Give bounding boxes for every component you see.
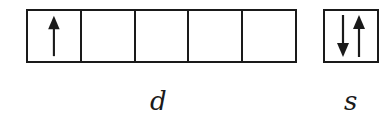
- d-orbital-cell-3: [134, 11, 188, 61]
- d-orbital-boxes: [26, 9, 297, 63]
- s-orbital-label: s: [344, 88, 357, 114]
- d-orbital-cell-2: [80, 11, 134, 61]
- d-orbital-label: d: [150, 88, 167, 114]
- d-orbital-cell-5: [241, 11, 295, 61]
- spin-up-arrow-icon: [28, 11, 80, 61]
- d-orbital-cell-4: [187, 11, 241, 61]
- s-orbital-box: [323, 9, 379, 63]
- spin-pair-arrows-icon: [325, 11, 377, 61]
- s-orbital-cell-1: [325, 11, 377, 61]
- d-orbital-cell-1: [28, 11, 80, 61]
